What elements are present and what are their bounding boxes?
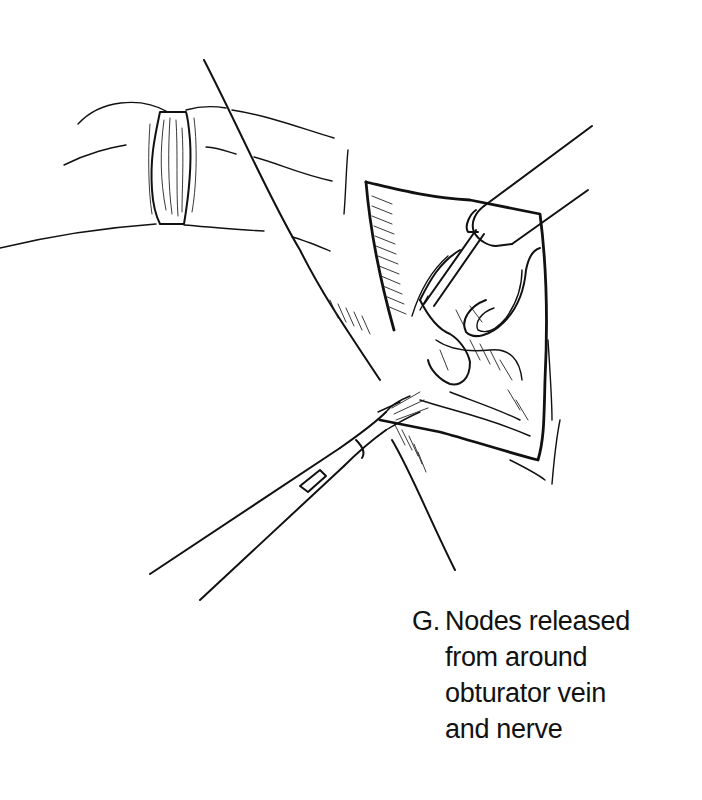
- caption-text: Nodes released from around obturator vei…: [445, 603, 702, 747]
- skin-fold-with-clamp: [0, 102, 348, 251]
- incision-wound: [330, 182, 552, 472]
- obturator-nerve: [420, 250, 460, 300]
- figure-label: G.: [412, 603, 445, 747]
- skin-contour-lower: [392, 440, 455, 570]
- figure-caption: G. Nodes released from around obturator …: [412, 603, 702, 747]
- upper-right-instrument: [420, 126, 592, 310]
- lymph-node-tissue: [420, 300, 470, 384]
- skin-contour-line: [204, 60, 380, 380]
- lower-left-forceps: [150, 392, 428, 600]
- skin-contour-right: [510, 460, 545, 480]
- skin-contour-right-2: [552, 420, 560, 484]
